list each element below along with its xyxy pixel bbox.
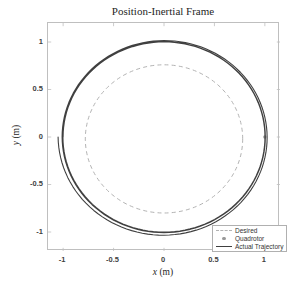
x-tick-label: 1 <box>262 255 266 264</box>
figure-window: Position-Inertial Frame x (m) y (m) Desi… <box>0 0 294 292</box>
marker-sample-icon <box>216 237 232 240</box>
legend-label: Desired <box>235 227 257 234</box>
y-tick-label: -1 <box>20 227 43 236</box>
dashed-line-sample-icon <box>216 230 232 231</box>
legend-label: Actual Trajectory <box>235 243 283 250</box>
trajectory-plot <box>48 23 280 251</box>
legend: Desired Quadrotor Actual Trajectory <box>212 225 287 252</box>
y-tick-label: 1 <box>20 37 43 46</box>
solid-line-sample-icon <box>216 246 232 247</box>
x-axis-label: x (m) <box>47 267 279 277</box>
legend-item-desired: Desired <box>216 227 283 235</box>
x-axis-unit: (m) <box>159 267 173 277</box>
x-tick-label: -0.5 <box>106 255 119 264</box>
x-axis-variable: x <box>153 267 157 277</box>
x-tick-label: -1 <box>59 255 66 264</box>
x-tick-label: 0 <box>161 255 165 264</box>
desired-trajectory-line <box>85 65 242 213</box>
y-tick-label: 0 <box>20 132 43 141</box>
plot-area <box>47 22 279 250</box>
y-tick-label: 0.5 <box>20 84 43 93</box>
chart-title: Position-Inertial Frame <box>47 5 279 17</box>
actual-trajectory-line <box>58 41 267 236</box>
legend-label: Quadrotor <box>235 235 264 242</box>
y-tick-label: -0.5 <box>20 179 43 188</box>
y-axis-variable: y <box>11 141 21 145</box>
legend-item-actual-trajectory: Actual Trajectory <box>216 242 283 250</box>
legend-item-quadrotor: Quadrotor <box>216 235 283 243</box>
x-tick-label: 0.5 <box>208 255 218 264</box>
